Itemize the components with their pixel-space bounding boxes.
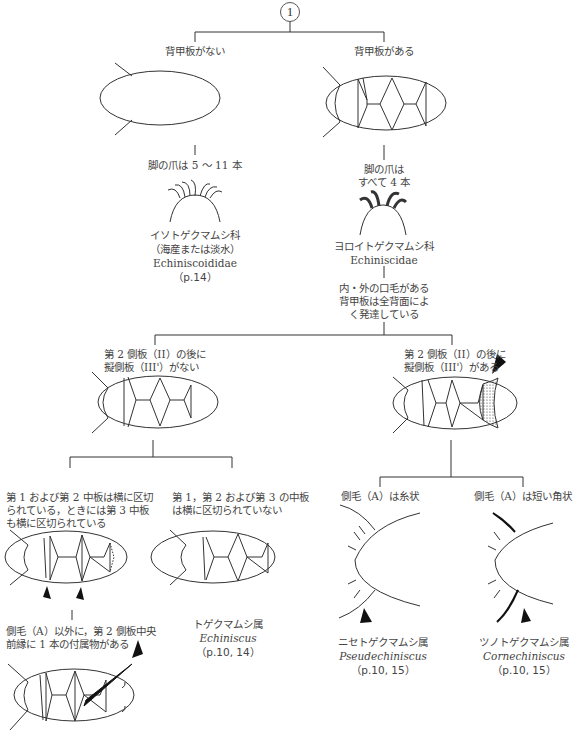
level3-ll-1: 第 1 および第 2 中板は横に区切: [6, 490, 153, 504]
arrowhead-icon: [76, 587, 84, 600]
page-ref-pseudechiniscus: （p.10, 15）: [351, 663, 414, 677]
appendage-note-1: 側毛（A）以外に，第 2 側板中央: [6, 624, 156, 638]
level2-left-1: 第 2 側板（II）の後に: [104, 347, 206, 361]
claw-count-right-2: すべて 4 本: [358, 175, 410, 189]
family-ja-left: イソトゲクマムシ科: [150, 228, 240, 242]
arrowhead-icon: [521, 608, 531, 623]
feature-right-1: 内・外の口毛がある: [339, 281, 429, 295]
undivided-median-plates-illustration: [151, 530, 275, 585]
four-claw-illustration: [360, 192, 406, 235]
family-sci-right: Echiniscidae: [350, 253, 418, 267]
family-ja-right: ヨロイトゲクマムシ科: [334, 239, 434, 253]
level3-rr-criterion: 側毛（A）は短い角状: [474, 489, 572, 503]
level3-ll-3: も横に区切られている: [6, 516, 106, 530]
divided-median-plates-illustration: [5, 530, 127, 600]
level2-right-2: 擬側板（III'）がある: [404, 360, 499, 374]
genus-ja-echiniscus: トゲクマムシ属: [193, 617, 263, 631]
habitat-left: （海産または淡水）: [150, 242, 240, 256]
level3-lr-1: 第 1，第 2 および第 3 の中板: [172, 490, 309, 504]
page-ref-left: （p.14）: [173, 270, 216, 284]
claw-count-left: 脚の爪は 5 〜 11 本: [148, 158, 241, 172]
connector-lines: [70, 21, 523, 620]
page-ref-echiniscus: （p.10, 14）: [196, 645, 259, 659]
level3-lr-2: は横に区切られていない: [172, 503, 282, 517]
level3-ll-2: られている，ときには第 3 中板: [6, 503, 149, 517]
claw-count-right-1: 脚の爪は: [364, 162, 404, 176]
page-ref-cornechiniscus: （p.10, 15）: [492, 663, 555, 677]
arrowhead-icon: [132, 640, 143, 658]
genus-sci-echiniscus: Echiniscus: [199, 631, 256, 645]
genus-ja-pseudechiniscus: ニセトゲクマムシ属: [338, 635, 428, 649]
dorsal-plates-criterion: 背甲板がある: [354, 44, 414, 58]
no-pseudosegmental-plate-illustration: [92, 372, 218, 433]
appendage-note-2: 前縁に 1 本の付属物がある: [6, 637, 129, 651]
plain-body-illustration: [100, 63, 220, 135]
genus-sci-pseudechiniscus: Pseudechiniscus: [339, 649, 427, 663]
genus-sci-cornechiniscus: Cornechiniscus: [483, 649, 565, 663]
horn-cirrus-illustration: [488, 513, 553, 623]
multi-claw-illustration: [168, 180, 222, 222]
level2-right-1: 第 2 側板（II）の後に: [404, 347, 506, 361]
level2-left-2: 擬側板（III'）がない: [104, 360, 199, 374]
no-dorsal-plates-criterion: 背甲板がない: [165, 44, 225, 58]
appendage-plate-illustration: [8, 640, 143, 730]
genus-ja-cornechiniscus: ツノトゲクマムシ属: [479, 635, 569, 649]
feature-right-2: 背甲板は全背面によ: [339, 294, 429, 308]
filamentous-cirrus-illustration: [339, 505, 420, 623]
root-node-marker: 1: [280, 2, 300, 22]
arrowhead-icon: [360, 608, 372, 623]
level3-rl-criterion: 側毛（A）は糸状: [341, 489, 419, 503]
family-sci-left: Echiniscoididae: [153, 256, 237, 270]
plated-body-illustration: [323, 67, 446, 137]
feature-right-3: く発達している: [349, 307, 419, 321]
arrowhead-icon: [43, 586, 51, 599]
